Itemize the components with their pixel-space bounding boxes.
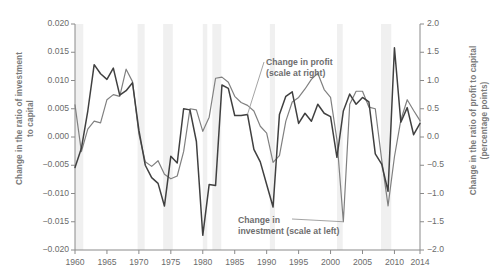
x-tick-label: 1960 bbox=[58, 257, 92, 267]
series-annotation-investment: Change in investment (scale at left) bbox=[238, 215, 339, 237]
series-line-profit bbox=[75, 48, 420, 236]
x-tick-label: 1985 bbox=[218, 257, 252, 267]
y-tick-label-right: 1.5 bbox=[427, 46, 461, 56]
y-tick-label-right: 0.5 bbox=[427, 103, 461, 113]
y-tick-label-right: 1.0 bbox=[427, 75, 461, 85]
y-tick-label-right: 0.0 bbox=[427, 131, 461, 141]
x-tick-label: 1975 bbox=[154, 257, 188, 267]
recession-band bbox=[212, 24, 221, 250]
y-tick-label-left: 0.015 bbox=[25, 46, 69, 56]
series-line-investment bbox=[75, 69, 420, 222]
y-tick-label-right: −2.0 bbox=[427, 244, 461, 254]
y-tick-label-right: −0.5 bbox=[427, 159, 461, 169]
x-tick-label: 2014 bbox=[403, 257, 437, 267]
y-tick-label-right: −1.5 bbox=[427, 216, 461, 226]
x-tick-label: 1995 bbox=[282, 257, 316, 267]
y-axis-right-title: Change in the ratio of profit to capital… bbox=[469, 36, 490, 206]
y-tick-label-left: 0.020 bbox=[25, 18, 69, 28]
x-tick-label: 1990 bbox=[250, 257, 284, 267]
y-tick-label-left: 0.000 bbox=[25, 131, 69, 141]
x-tick-label: 2005 bbox=[346, 257, 380, 267]
annotation-leader-profit bbox=[248, 62, 265, 114]
y-tick-label-right: −1.0 bbox=[427, 188, 461, 198]
y-tick-label-left: 0.005 bbox=[25, 103, 69, 113]
chart-plot-area bbox=[0, 0, 493, 280]
recession-band bbox=[163, 24, 173, 250]
series-annotation-profit: Change in profit (scale at right) bbox=[266, 57, 333, 79]
y-tick-label-left: −0.005 bbox=[25, 159, 69, 169]
y-tick-label-left: −0.015 bbox=[25, 216, 69, 226]
y-axis-left-title: Change in the ratio of investment to cap… bbox=[15, 34, 36, 204]
y-tick-label-left: −0.020 bbox=[25, 244, 69, 254]
x-tick-label: 2000 bbox=[314, 257, 348, 267]
y-tick-label-left: −0.010 bbox=[25, 188, 69, 198]
x-tick-label: 1970 bbox=[122, 257, 156, 267]
y-tick-label-right: 2.0 bbox=[427, 18, 461, 28]
x-tick-label: 1965 bbox=[90, 257, 124, 267]
y-tick-label-left: 0.010 bbox=[25, 75, 69, 85]
x-tick-label: 1980 bbox=[186, 257, 220, 267]
recession-band bbox=[138, 24, 145, 250]
chart-container: Change in the ratio of investment to cap… bbox=[0, 0, 493, 280]
recession-band bbox=[381, 24, 391, 250]
